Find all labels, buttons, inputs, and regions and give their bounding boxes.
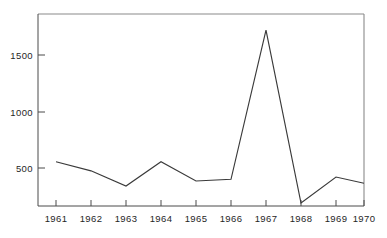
x-tick-label-1969: 1969	[325, 213, 348, 224]
x-tick-label-1962: 1962	[80, 213, 103, 224]
x-tick-label-1966: 1966	[220, 213, 243, 224]
x-tick-label-1970: 1970	[353, 213, 376, 224]
x-tick-label-1967: 1967	[255, 213, 278, 224]
x-tick-label-1968: 1968	[290, 213, 313, 224]
x-tick-label-1961: 1961	[45, 213, 68, 224]
x-tick-label-1964: 1964	[150, 213, 173, 224]
chart-container: 1500 1000 500 1961 1962 1963 1964 1965 1…	[0, 0, 387, 238]
y-tick-label-500: 500	[16, 163, 33, 174]
x-tick-label-1965: 1965	[185, 213, 208, 224]
chart-background	[0, 0, 387, 238]
line-chart: 1500 1000 500 1961 1962 1963 1964 1965 1…	[0, 0, 387, 238]
x-tick-label-1963: 1963	[115, 213, 138, 224]
y-tick-label-1500: 1500	[10, 50, 33, 61]
y-tick-label-1000: 1000	[10, 107, 33, 118]
